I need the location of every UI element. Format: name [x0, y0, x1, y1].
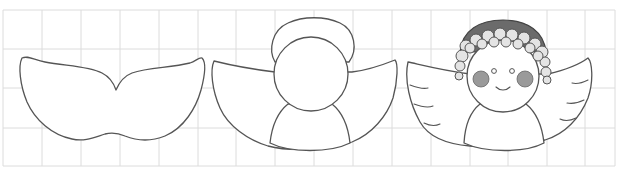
angel-drawing-figure	[0, 0, 621, 171]
right-cheek	[517, 71, 533, 87]
step-2-construction	[212, 18, 397, 151]
head	[274, 37, 348, 111]
step-3-finished-angel	[407, 20, 592, 151]
right-eye	[510, 69, 515, 74]
left-cheek	[473, 71, 489, 87]
step-1-wings	[20, 57, 205, 140]
left-eye	[492, 69, 497, 74]
